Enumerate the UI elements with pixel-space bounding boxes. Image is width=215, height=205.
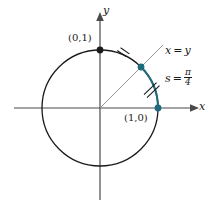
point-intersection xyxy=(138,64,145,71)
arc-highlight xyxy=(141,67,158,108)
annotation-arc-denominator: 4 xyxy=(184,77,192,87)
annotation-line-rhs: y xyxy=(184,44,190,57)
point-1-0 xyxy=(155,105,162,112)
x-axis-arrowhead xyxy=(190,104,199,112)
annotation-arc-numerator: π xyxy=(184,68,192,77)
unit-circle-figure: x y (0,1) (1,0) x=y s= π 4 xyxy=(0,0,215,205)
line-x-equals-y xyxy=(100,45,163,108)
annotation-arc-fraction: π 4 xyxy=(184,68,192,88)
annotation-arc-operator: = xyxy=(171,72,184,85)
point-label-0-1: (0,1) xyxy=(68,33,92,43)
annotation-line-equation: x=y xyxy=(165,45,191,56)
figure-canvas xyxy=(0,0,215,205)
x-axis-label: x xyxy=(199,101,205,112)
annotation-arc-lhs: s xyxy=(165,72,171,85)
y-axis-label: y xyxy=(103,5,109,16)
annotation-line-operator: = xyxy=(171,44,184,57)
y-axis xyxy=(96,12,104,200)
point-label-1-0: (1,0) xyxy=(124,113,148,123)
annotation-arc-length: s= π 4 xyxy=(165,68,192,88)
arc-tick-upper xyxy=(117,48,129,57)
point-0-1 xyxy=(97,47,104,54)
